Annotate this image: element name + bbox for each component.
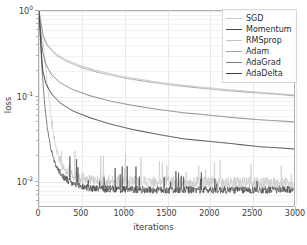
legend-swatch-icon: [226, 29, 242, 30]
y-tick-mark-minor: [36, 14, 38, 15]
legend-swatch-icon: [226, 73, 242, 74]
y-tick-mark: [35, 10, 38, 11]
y-tick-mark-minor: [36, 190, 38, 191]
legend-item-momentum[interactable]: Momentum: [226, 24, 292, 35]
x-tick-label: 3000: [285, 209, 305, 218]
y-tick-mark-minor: [36, 121, 38, 122]
x-tick-mark: [81, 207, 82, 210]
y-tick-mark-minor: [36, 130, 38, 131]
y-tick-mark-minor: [36, 155, 38, 156]
y-tick-mark-minor: [36, 23, 38, 24]
legend-label: AdaGrad: [246, 57, 281, 68]
y-tick-mark-minor: [36, 44, 38, 45]
y-tick-mark-minor: [36, 185, 38, 186]
x-tick-label: 2000: [199, 209, 219, 218]
y-tick-mark: [35, 96, 38, 97]
y-tick-mark-minor: [36, 55, 38, 56]
legend-item-adam[interactable]: Adam: [226, 46, 292, 57]
legend-item-rmsprop[interactable]: RMSprop: [226, 35, 292, 46]
y-tick-mark-minor: [36, 140, 38, 141]
x-tick-label: 1500: [156, 209, 176, 218]
legend-label: Adam: [246, 46, 269, 57]
x-tick-label: 0: [35, 209, 40, 218]
y-tick-mark: [35, 181, 38, 182]
legend-item-adadelta[interactable]: AdaDelta: [226, 68, 292, 79]
x-tick-label: 500: [73, 209, 88, 218]
x-tick-label: 1000: [113, 209, 133, 218]
y-tick-mark-minor: [36, 194, 38, 195]
y-tick-mark-minor: [36, 29, 38, 30]
legend-swatch-icon: [226, 62, 242, 63]
x-tick-mark: [209, 207, 210, 210]
x-tick-label: 2500: [242, 209, 262, 218]
legend-item-adagrad[interactable]: AdaGrad: [226, 57, 292, 68]
x-tick-mark: [167, 207, 168, 210]
x-tick-mark: [252, 207, 253, 210]
y-axis-label: loss: [3, 75, 13, 135]
y-tick-mark-minor: [36, 200, 38, 201]
y-tick-mark-minor: [36, 104, 38, 105]
y-tick-mark-minor: [36, 115, 38, 116]
x-tick-mark: [124, 207, 125, 210]
x-tick-mark: [295, 207, 296, 210]
legend-swatch-icon: [226, 51, 242, 52]
legend-label: RMSprop: [246, 35, 282, 46]
legend-label: AdaDelta: [246, 68, 283, 79]
legend-swatch-icon: [226, 40, 242, 41]
y-tick-mark-minor: [36, 109, 38, 110]
y-tick-label: 100: [0, 4, 33, 16]
y-tick-mark-minor: [36, 70, 38, 71]
legend-swatch-icon: [226, 18, 242, 19]
legend-item-sgd[interactable]: SGD: [226, 13, 292, 24]
loss-curve-figure: 050010001500200025003000 10010-110-2 ite…: [0, 0, 307, 245]
y-tick-mark-minor: [36, 36, 38, 37]
y-tick-mark-minor: [36, 18, 38, 19]
y-tick-mark-minor: [36, 100, 38, 101]
legend-label: Momentum: [246, 24, 292, 35]
x-tick-mark: [38, 207, 39, 210]
y-tick-label: 10-2: [0, 175, 33, 187]
legend: SGDMomentumRMSpropAdamAdaGradAdaDelta: [222, 9, 297, 83]
legend-label: SGD: [246, 13, 263, 24]
x-axis-label: iterations: [0, 222, 307, 232]
